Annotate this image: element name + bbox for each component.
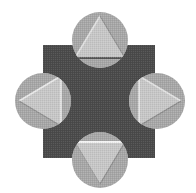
lobe-west xyxy=(15,73,71,129)
lobe-east xyxy=(129,73,185,129)
lobe-north xyxy=(72,12,128,68)
lobe-south xyxy=(72,132,128,188)
figure-canvas: Four-lobed rosette emblem A light gray s… xyxy=(0,0,196,193)
rosette-graphic xyxy=(0,0,196,193)
